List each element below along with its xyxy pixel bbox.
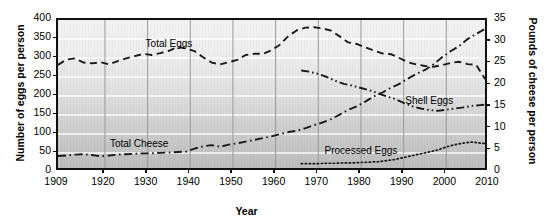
- x-tick-label: 2010: [465, 176, 509, 187]
- y-tick-label-left: 400: [21, 12, 51, 23]
- y-tick-label-right: 10: [494, 121, 524, 132]
- y-tick-label-left: 200: [21, 88, 51, 99]
- x-tick-label: 2000: [422, 176, 466, 187]
- x-tick-label: 1920: [81, 176, 125, 187]
- y-tick-label-right: 5: [494, 142, 524, 153]
- series-label-total-cheese: Total Cheese: [110, 138, 168, 149]
- y-tick-label-right: 25: [494, 55, 524, 66]
- x-tick-label: 1990: [380, 176, 424, 187]
- x-tick-label: 1970: [294, 176, 338, 187]
- y-tick-label-right: 35: [494, 12, 524, 23]
- y-tick-label-left: 350: [21, 31, 51, 42]
- y-tick-label-left: 0: [21, 164, 51, 175]
- series-label-total-eggs: Total Eggs: [146, 38, 193, 49]
- y-tick-label-right: 15: [494, 99, 524, 110]
- y-tick-label-right: 0: [494, 164, 524, 175]
- plot-area: Total EggsTotal CheeseShell EggsProcesse…: [56, 18, 487, 170]
- x-tick-label: 1960: [252, 176, 296, 187]
- x-tick-label: 1950: [209, 176, 253, 187]
- series-label-shell-eggs: Shell Eggs: [405, 95, 453, 106]
- x-tick-label: 1909: [34, 176, 78, 187]
- y-tick-label-right: 20: [494, 77, 524, 88]
- x-tick-label: 1940: [166, 176, 210, 187]
- y-tick-label-left: 100: [21, 126, 51, 137]
- y-axis-title-right: Pounds of cheese per person: [527, 11, 539, 171]
- y-tick-label-left: 300: [21, 50, 51, 61]
- y-tick-label-left: 250: [21, 69, 51, 80]
- y-tick-label-left: 150: [21, 107, 51, 118]
- y-tick-label-right: 30: [494, 34, 524, 45]
- x-axis-title: Year: [0, 205, 523, 217]
- y-tick-label-left: 50: [21, 145, 51, 156]
- x-tick-label: 1930: [124, 176, 168, 187]
- series-label-processed-eggs: Processed Eggs: [325, 145, 398, 156]
- chart-figure: Number of eggs per person Pounds of chee…: [0, 0, 553, 224]
- x-tick-label: 1980: [337, 176, 381, 187]
